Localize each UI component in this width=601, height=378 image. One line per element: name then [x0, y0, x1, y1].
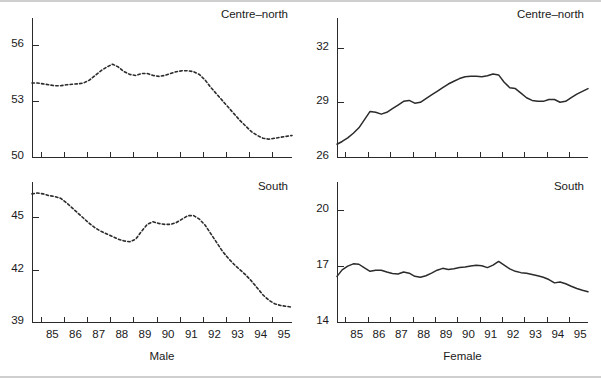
ytick-label-bottom-right-17: 17: [301, 258, 329, 270]
ytick-label-bottom-right-14: 14: [301, 314, 329, 326]
panel-title-bottom-right: South: [388, 180, 584, 192]
x-axis-label-bottom-right: Female: [403, 350, 523, 362]
figure-panel-grid: Centre–north505356Centre–north262932Sout…: [0, 0, 601, 378]
series-line-bottom-right: [337, 261, 588, 291]
xtick-label-bottom-right-95: 95: [564, 328, 596, 340]
ytick-label-bottom-right-20: 20: [301, 202, 329, 214]
